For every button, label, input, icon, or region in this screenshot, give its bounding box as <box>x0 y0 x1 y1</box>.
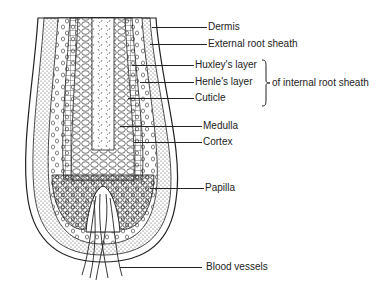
label-internal-root-sheath: of internal root sheath <box>272 77 369 89</box>
label-huxleys-layer: Huxley's layer <box>195 59 257 71</box>
label-blood-vessels: Blood vessels <box>206 261 268 273</box>
label-henles-layer: Henle's layer <box>195 76 253 88</box>
leader-cortex <box>134 142 202 143</box>
leader-dermis <box>152 27 207 28</box>
label-papilla: Papilla <box>205 182 235 194</box>
leader-blood-vessels <box>120 267 202 268</box>
leader-huxleys-layer <box>132 65 194 66</box>
leader-papilla <box>150 188 204 189</box>
leader-cuticle <box>128 98 194 99</box>
hair-follicle-diagram: Dermis External root sheath Huxley's lay… <box>0 0 384 288</box>
label-medulla: Medulla <box>203 120 238 132</box>
label-dermis: Dermis <box>208 21 240 33</box>
leader-external-root-sheath <box>150 44 207 45</box>
label-cortex: Cortex <box>203 136 232 148</box>
label-cuticle: Cuticle <box>195 92 226 104</box>
bracket-icon <box>262 60 270 106</box>
label-external-root-sheath: External root sheath <box>208 38 298 50</box>
leader-medulla <box>120 126 202 127</box>
leader-henles-layer <box>140 82 194 83</box>
